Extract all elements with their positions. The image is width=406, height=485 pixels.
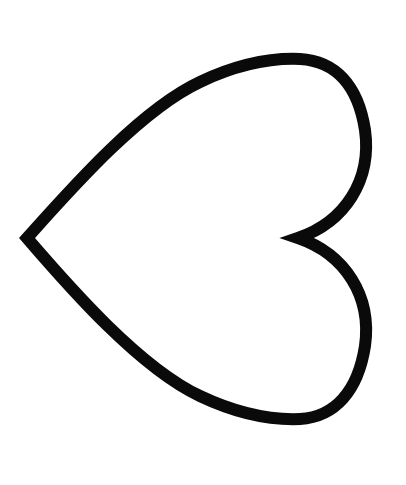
heart-outline-icon	[0, 0, 406, 485]
heart-canvas: heart outline	[0, 0, 406, 485]
